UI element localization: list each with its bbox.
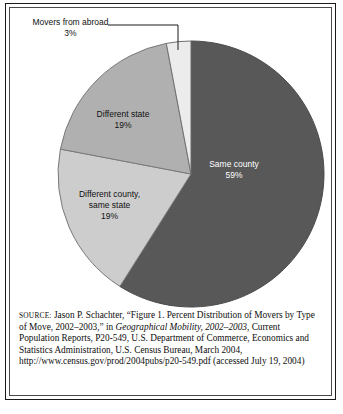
- pie-chart-graphic: [6, 4, 337, 309]
- slice-label-different-county-same-state: Different county, same state 19%: [52, 189, 167, 222]
- source-citation-label: SOURCE:: [19, 311, 52, 320]
- slice-label-different-county-line1: Different county,: [79, 189, 140, 199]
- slice-label-different-state-text: Different state: [97, 109, 150, 119]
- slice-label-different-county-line2: same state: [89, 200, 131, 210]
- slice-label-different-state: Different state 19%: [68, 109, 178, 131]
- slice-label-same-county: Same county 59%: [184, 159, 284, 181]
- source-citation: SOURCE: Jason P. Schachter, “Figure 1. P…: [19, 310, 322, 368]
- slice-label-different-state-value: 19%: [114, 120, 131, 130]
- slice-label-same-county-value: 59%: [225, 170, 242, 180]
- source-citation-publication-title: Geographical Mobility, 2002–2003,: [116, 322, 250, 332]
- slice-label-same-county-text: Same county: [209, 159, 259, 169]
- pie-chart-area: Movers from abroad 3% Same county 59% Di…: [6, 4, 337, 309]
- callout-movers-from-abroad: Movers from abroad 3%: [18, 17, 123, 39]
- callout-movers-from-abroad-label: Movers from abroad: [32, 17, 108, 27]
- figure-frame: Movers from abroad 3% Same county 59% Di…: [5, 3, 336, 400]
- slice-label-different-county-value: 19%: [101, 211, 118, 221]
- callout-movers-from-abroad-value: 3%: [64, 28, 76, 38]
